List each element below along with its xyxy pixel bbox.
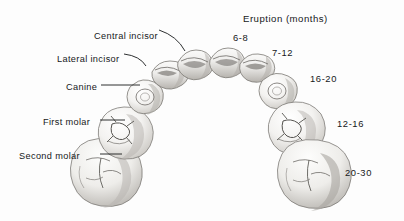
label-second-molar: Second molar bbox=[19, 152, 80, 161]
dental-arch-diagram bbox=[0, 0, 404, 221]
eruption-label-lateral-incisor: 7-12 bbox=[272, 48, 293, 57]
label-first-molar: First molar bbox=[43, 118, 90, 127]
eruption-label-second-molar: 20-30 bbox=[345, 168, 372, 177]
eruption-label-canine: 16-20 bbox=[310, 74, 337, 83]
label-lateral-incisor: Lateral incisor bbox=[57, 55, 119, 64]
label-canine: Canine bbox=[66, 83, 97, 92]
eruption-label-central-incisor: 6-8 bbox=[233, 33, 248, 42]
label-central-incisor: Central incisor bbox=[94, 32, 158, 41]
eruption-label-first-molar: 12-16 bbox=[337, 119, 364, 128]
chart-title: Eruption (months) bbox=[243, 14, 328, 24]
tooth-first-molar-left bbox=[98, 107, 153, 160]
